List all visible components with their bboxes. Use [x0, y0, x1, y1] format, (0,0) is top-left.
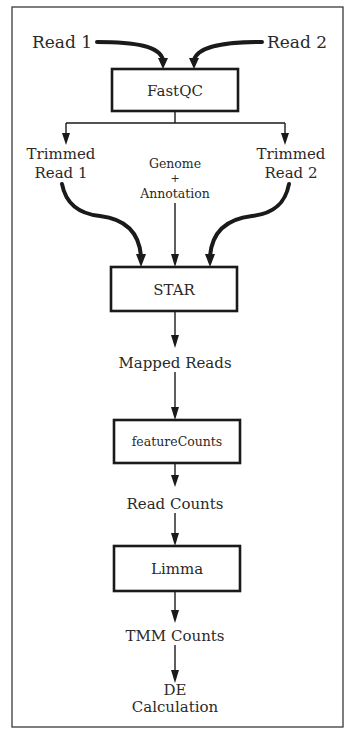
tmm-counts-label: TMM Counts: [125, 627, 224, 645]
trimmed1-to-star-arrow: [62, 184, 141, 256]
step-featurecounts-label: featureCounts: [132, 434, 223, 449]
trimmed2-to-star-arrow: [210, 184, 289, 256]
arrowhead-icon: [171, 475, 179, 487]
de-calculation-line2: Calculation: [132, 698, 219, 716]
arrowhead-icon: [171, 533, 179, 546]
arrowhead-icon: [136, 254, 146, 267]
trimmed-read1-line2: Read 1: [34, 164, 87, 182]
step-star-label: STAR: [153, 281, 195, 299]
step-featurecounts: featureCounts: [114, 420, 240, 463]
step-limma-label: Limma: [151, 560, 203, 578]
genome-label: Genome: [149, 156, 201, 171]
input-read2-label: Read 2: [267, 32, 327, 52]
fastqc-branch-connector: [66, 111, 285, 123]
step-limma: Limma: [114, 546, 240, 591]
arrowhead-icon: [171, 254, 179, 267]
arrowhead-icon: [62, 133, 70, 145]
mapped-reads-label: Mapped Reads: [118, 354, 231, 372]
trimmed-read1-line1: Trimmed: [27, 145, 96, 163]
step-fastqc: FastQC: [112, 69, 238, 111]
annotation-label: Annotation: [139, 186, 210, 201]
arrowhead-icon: [171, 335, 179, 348]
arrowhead-icon: [171, 407, 179, 420]
arrowhead-icon: [158, 58, 168, 69]
arrowhead-icon: [171, 610, 179, 623]
de-calculation-line1: DE: [164, 681, 187, 699]
arrowhead-icon: [205, 254, 215, 267]
plus-label: +: [170, 172, 179, 185]
trimmed-read2-line2: Read 2: [264, 164, 317, 182]
read2-to-fastqc-arrow: [194, 42, 262, 60]
arrowhead-icon: [189, 58, 199, 69]
read1-to-fastqc-arrow: [97, 42, 163, 60]
pipeline-diagram: Read 1 Read 2 FastQC Trimmed Read 1 Trim…: [0, 0, 352, 734]
step-star: STAR: [111, 267, 237, 311]
arrowhead-icon: [281, 133, 289, 145]
input-read1-label: Read 1: [32, 32, 92, 52]
read-counts-label: Read Counts: [126, 495, 223, 513]
step-fastqc-label: FastQC: [147, 82, 203, 100]
trimmed-read2-line1: Trimmed: [257, 145, 326, 163]
